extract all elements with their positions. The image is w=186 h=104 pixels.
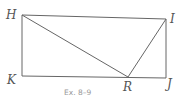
segment-jk bbox=[22, 76, 166, 78]
point-label-k: K bbox=[6, 73, 17, 87]
point-label-j: J bbox=[164, 77, 173, 91]
segment-ri bbox=[128, 19, 166, 77]
point-label-r: R bbox=[122, 80, 132, 94]
segment-hi bbox=[22, 15, 166, 19]
geometry-diagram: H I K R J Ex. 8–9 bbox=[0, 0, 186, 104]
figure-caption: Ex. 8–9 bbox=[64, 88, 91, 97]
point-label-h: H bbox=[5, 8, 17, 22]
point-label-i: I bbox=[169, 12, 175, 26]
segment-hr bbox=[22, 15, 128, 77]
